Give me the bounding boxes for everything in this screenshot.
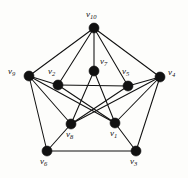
vertex-label-v6: v6 [40, 157, 47, 166]
vertex-label-v5: v5 [122, 67, 129, 76]
graph-edge [29, 76, 47, 151]
graph-vertex-v1 [110, 118, 120, 128]
graph-vertex-v6 [42, 146, 52, 156]
graph-vertex-v9 [24, 71, 34, 81]
graph-vertex-v10 [89, 23, 99, 33]
vertex-label-v3: v3 [130, 157, 137, 166]
graph-vertex-v5 [123, 81, 133, 91]
graph-vertex-v3 [131, 146, 141, 156]
vertex-label-v9: v9 [8, 67, 15, 76]
vertex-label-v8: v8 [66, 130, 73, 139]
vertex-label-subscript: 7 [104, 60, 107, 67]
graph-vertex-v4 [155, 72, 165, 82]
vertex-label-subscript: 3 [134, 160, 137, 167]
graph-edge [115, 77, 160, 123]
graph-vertex-v2 [53, 80, 63, 90]
graph-edge [58, 28, 94, 85]
graph-diagram: v10v9v4v6v3v2v7v5v8v1 [0, 0, 188, 178]
vertex-label-v1: v1 [110, 129, 117, 138]
vertex-label-subscript: 1 [114, 132, 117, 139]
vertex-label-v4: v4 [168, 68, 175, 77]
graph-vertex-v7 [89, 66, 99, 76]
graph-edge [58, 85, 128, 86]
graph-vertex-v8 [66, 119, 76, 129]
vertex-label-v7: v7 [100, 57, 107, 66]
vertex-label-subscript: 5 [126, 70, 129, 77]
graph-edge [58, 85, 115, 123]
vertex-label-subscript: 10 [90, 13, 97, 20]
vertex-label-subscript: 2 [52, 70, 55, 77]
graph-canvas [0, 0, 188, 178]
edges-group [29, 28, 160, 151]
vertex-label-subscript: 6 [44, 160, 47, 167]
vertex-label-subscript: 4 [172, 71, 175, 78]
vertex-label-v2: v2 [48, 67, 55, 76]
vertex-label-subscript: 9 [12, 70, 15, 77]
graph-edge [29, 28, 94, 76]
graph-edge [29, 76, 115, 123]
graph-edge [29, 76, 71, 124]
vertex-label-subscript: 8 [70, 133, 73, 140]
vertex-label-v10: v10 [86, 10, 97, 19]
